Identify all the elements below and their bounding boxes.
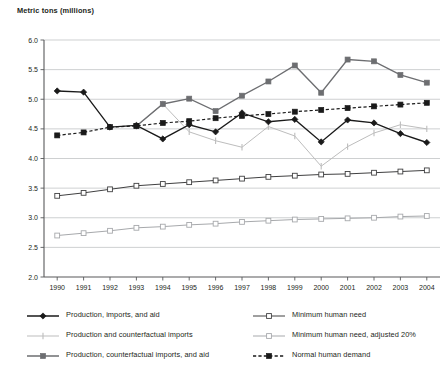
data-point-marker [213,178,218,183]
data-point-marker [213,109,218,114]
data-point-marker [160,182,165,187]
data-point-marker [81,130,86,135]
legend-key-swatch [252,350,286,362]
data-point-marker [372,215,377,220]
x-axis-tick-label: 1998 [261,284,277,291]
data-point-marker [189,129,190,135]
y-axis-tick-label: 5.5 [28,66,38,73]
legend-item[interactable]: Normal human demand [252,344,445,364]
plot-area: 2.02.53.03.54.04.55.05.56.01990199119921… [0,0,445,304]
legend-item[interactable]: Production, counterfactual imports, and … [26,344,241,364]
data-point-marker [319,217,324,222]
legend-item-label: Minimum human need [292,310,366,319]
data-point-marker [400,122,401,128]
data-point-marker [266,174,271,179]
x-axis-tick-label: 1997 [234,284,250,291]
data-point-marker [345,216,350,221]
data-point-marker [319,90,324,95]
data-point-marker [213,221,218,226]
legend-item[interactable]: Production, imports, and aid [26,304,241,324]
legend-key-swatch [252,310,286,322]
series-4 [55,214,429,238]
data-point-marker [267,334,272,339]
x-axis-tick-label: 2000 [313,284,329,291]
data-point-marker [41,354,46,359]
data-point-marker [426,126,427,132]
legend-item-label: Production, imports, and aid [66,310,160,319]
x-axis-tick-label: 1991 [76,284,92,291]
data-point-marker [160,224,165,229]
legend-marker-icon [252,328,286,340]
x-axis-tick-label: 2001 [340,284,356,291]
legend-item[interactable]: Minimum human need [252,304,445,324]
data-point-marker [397,131,403,137]
y-axis-tick-label: 2.5 [28,244,38,251]
x-axis-tick-label: 1999 [287,284,303,291]
data-point-marker [294,133,295,139]
x-axis-tick-label: 1992 [102,284,118,291]
x-axis-tick-label: 1993 [129,284,145,291]
legend-item[interactable]: Production and counterfactual imports [26,324,241,344]
series-line [136,104,426,166]
data-point-marker [398,169,403,174]
data-point-marker [187,96,192,101]
chart-legend: Production, imports, and aidProduction a… [0,304,445,372]
y-axis-tick-label: 5.0 [28,96,38,103]
data-point-marker [345,57,350,62]
data-point-marker [319,107,324,112]
x-axis-tick-label: 2003 [393,284,409,291]
data-point-marker [372,59,377,64]
data-point-marker [292,109,297,114]
data-point-marker [81,231,86,236]
x-axis-tick-label: 2002 [366,284,382,291]
data-point-marker [345,172,350,177]
legend-key-swatch [26,330,60,342]
series-2 [134,57,429,128]
legend-marker-icon [252,308,286,320]
data-point-marker [292,173,297,178]
x-axis-tick-label: 1996 [208,284,224,291]
y-axis-tick-label: 6.0 [28,37,38,44]
legend-column-right: Minimum human needMinimum human need, ad… [252,304,445,364]
data-point-marker [54,88,60,94]
data-point-marker [134,183,139,188]
data-point-marker [398,102,403,107]
data-point-marker [372,170,377,175]
data-point-marker [108,187,113,192]
data-point-marker [240,176,245,181]
legend-item-label: Production and counterfactual imports [66,330,193,339]
data-point-marker [134,225,139,230]
data-point-marker [55,193,60,198]
data-point-marker [160,101,165,106]
y-axis-tick-label: 3.0 [28,214,38,221]
data-point-marker [424,168,429,173]
data-point-marker [371,120,377,126]
data-point-marker [81,190,86,195]
data-point-marker [213,116,218,121]
data-point-marker [321,163,322,169]
data-point-marker [424,80,429,85]
data-point-marker [372,104,377,109]
data-point-marker [240,93,245,98]
legend-item[interactable]: Minimum human need, adjusted 20% [252,324,445,344]
data-point-marker [267,354,272,359]
legend-marker-icon [26,348,60,360]
data-point-marker [187,180,192,185]
legend-key-swatch [26,350,60,362]
x-axis-tick-label: 1990 [49,284,65,291]
data-point-marker [160,120,165,125]
data-point-marker [424,139,430,145]
data-point-marker [242,144,243,150]
data-point-marker [345,106,350,111]
legend-marker-icon [26,328,60,340]
data-point-marker [374,130,375,136]
data-point-marker [292,217,297,222]
data-point-marker [265,119,271,125]
chart-container: Metric tons (millions) 2.02.53.03.54.04.… [0,0,445,372]
data-point-marker [424,100,429,105]
data-point-marker [398,72,403,77]
data-point-marker [292,63,297,68]
data-point-marker [347,143,348,149]
legend-column-left: Production, imports, and aidProduction a… [26,304,241,364]
data-point-marker [43,333,44,339]
